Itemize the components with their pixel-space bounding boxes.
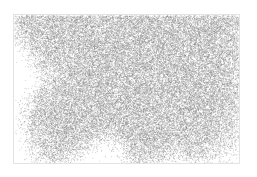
plot-frame [13,14,240,164]
point-density-scatter-plot [14,15,239,163]
screenshot-root [0,0,257,177]
